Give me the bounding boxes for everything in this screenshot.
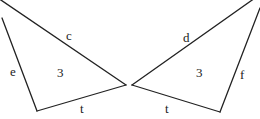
- right-triangle: d f t 3: [132, 0, 260, 116]
- edge-e: [2, 18, 37, 111]
- edge-f: [220, 8, 260, 112]
- diagram-canvas: c e t 3 d f t 3: [0, 0, 260, 119]
- label-t-left: t: [80, 101, 84, 116]
- interior-label-left: 3: [57, 65, 64, 80]
- label-t-right: t: [165, 101, 169, 116]
- label-e: e: [10, 64, 16, 79]
- triangles-diagram: c e t 3 d f t 3: [0, 0, 260, 119]
- interior-label-right: 3: [196, 65, 203, 80]
- label-d: d: [183, 30, 190, 45]
- left-triangle: c e t 3: [0, 0, 126, 116]
- label-c: c: [66, 28, 72, 43]
- edge-d: [132, 0, 255, 85]
- label-f: f: [240, 67, 245, 82]
- edge-t-right: [132, 85, 220, 112]
